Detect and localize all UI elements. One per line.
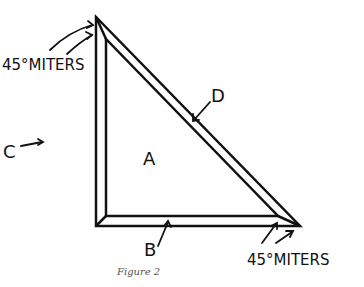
top-miter-line <box>96 17 106 39</box>
triangle-frame-diagram: 45°MITERS C A D B 45°MITERS Figure 2 <box>0 0 364 287</box>
label-miters-bottom: 45°MITERS <box>247 251 330 269</box>
outer-frame <box>96 17 300 226</box>
arrow-head-icon <box>87 21 93 28</box>
figure-caption: Figure 2 <box>116 266 160 277</box>
label-a: A <box>143 148 156 169</box>
arrow-top-miter-1 <box>50 25 92 50</box>
label-c: C <box>3 141 16 162</box>
left-miter-line <box>96 216 106 226</box>
label-d: D <box>211 85 225 106</box>
arrow-d <box>194 102 210 120</box>
label-b: B <box>144 239 156 260</box>
arrow-head-icon <box>86 32 92 39</box>
inner-frame <box>106 39 278 216</box>
label-miters-top: 45°MITERS <box>2 56 85 74</box>
